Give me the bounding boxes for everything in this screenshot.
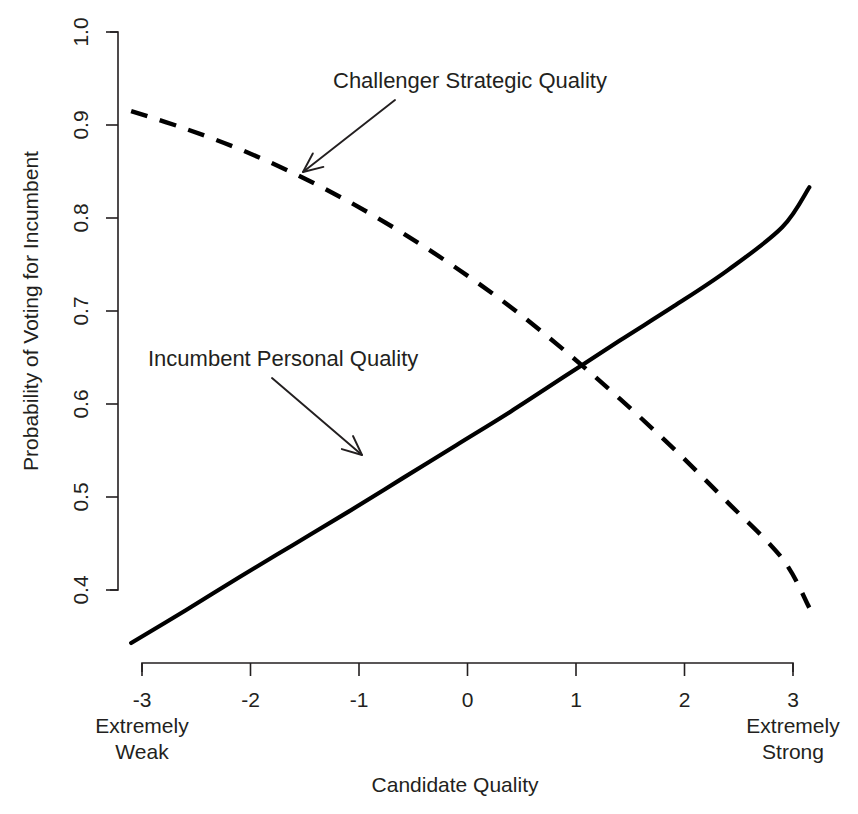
x-axis-endcap-right: Extremely Strong [746,714,840,763]
annotation-challenger-strategic-quality: Challenger Strategic Quality [303,68,607,172]
chart-canvas: 1.0 0.9 0.8 0.7 0.6 0.5 0.4 Probability … [0,0,858,814]
x-axis-ticks [142,663,793,676]
x-axis-tick-labels: -3 -2 -1 0 1 2 3 [133,688,799,711]
y-axis-tick-labels: 1.0 0.9 0.8 0.7 0.6 0.5 0.4 [69,17,92,604]
y-tick-label: 0.5 [69,482,92,511]
x-axis-endcap-left: Extremely Weak [95,714,189,763]
y-tick-label: 0.8 [69,203,92,232]
chart-page: 1.0 0.9 0.8 0.7 0.6 0.5 0.4 Probability … [0,0,858,814]
y-tick-label: 0.6 [69,389,92,418]
endcap-right-line2: Strong [762,740,824,763]
x-tick-label: -2 [241,688,260,711]
x-tick-label: 1 [570,688,582,711]
x-tick-label: 2 [679,688,691,711]
annotation-arrow-line [303,100,395,172]
annotation-arrow-line [272,378,362,455]
x-tick-label: 3 [787,688,799,711]
x-axis-title: Candidate Quality [372,773,539,796]
y-axis-title: Probability of Voting for Incumbent [19,151,42,471]
annotation-label: Challenger Strategic Quality [333,68,607,93]
y-tick-label: 0.7 [69,296,92,325]
endcap-right-line1: Extremely [746,714,840,737]
y-axis-ticks [106,32,118,590]
series-line-incumbent-personal-quality [131,187,809,643]
y-tick-label: 1.0 [69,17,92,46]
x-tick-label: -3 [133,688,152,711]
x-tick-label: 0 [462,688,474,711]
y-tick-label: 0.9 [69,110,92,139]
annotation-label: Incumbent Personal Quality [148,346,418,371]
annotation-incumbent-personal-quality: Incumbent Personal Quality [148,346,418,455]
endcap-left-line2: Weak [115,740,169,763]
endcap-left-line1: Extremely [95,714,189,737]
y-tick-label: 0.4 [69,575,92,605]
x-tick-label: -1 [350,688,369,711]
